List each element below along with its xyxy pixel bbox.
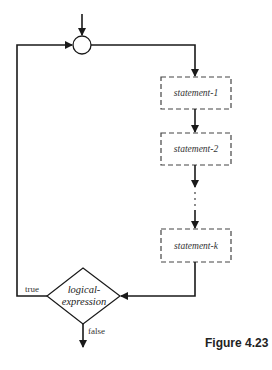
condition-label-line2: expression [62,296,107,307]
condition-diamond: logical- expression [47,268,120,324]
junction-circle [73,36,91,54]
false-label: false [88,326,105,336]
true-loop-back [17,45,72,296]
statement-k-box: statement-k [161,229,231,262]
statement-1-label: statement-1 [174,88,218,98]
figure-caption: Figure 4.23 [205,336,269,350]
true-label: true [25,284,39,294]
flowchart-canvas: statement-1 statement-2 statement-k logi… [0,0,272,370]
condition-label-line1: logical- [68,284,101,295]
statement-k-label: statement-k [174,241,219,251]
statement-2-label: statement-2 [174,144,219,154]
flow-to-condition [121,262,195,296]
statement-2-box: statement-2 [161,133,231,165]
statement-1-box: statement-1 [161,77,231,109]
flow-to-statement-1 [91,45,195,76]
ellipsis-dots [194,192,196,206]
